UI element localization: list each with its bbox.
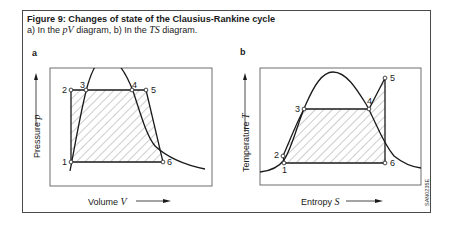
point-4-label: 4 (367, 97, 372, 106)
arrowhead-icon (243, 73, 247, 80)
point-3-label: 3 (80, 81, 85, 90)
point-3 (302, 107, 306, 111)
pv-diagram (34, 58, 212, 203)
point-1-label: 1 (282, 166, 287, 175)
ts-diagram (243, 68, 421, 203)
point-5-label: 5 (390, 74, 395, 83)
panel-b-x-label: Entropy S (301, 196, 340, 207)
y-label-text: Pressure (32, 119, 42, 158)
point-4-label: 4 (132, 81, 137, 90)
figure-code: SAN0235E (424, 179, 430, 206)
x-label-text: Volume (88, 197, 121, 207)
point-2-label: 2 (274, 151, 279, 160)
x-label-var: V (121, 196, 127, 207)
point-6-label: 6 (390, 159, 395, 168)
y-label-var: T (240, 113, 251, 119)
point-6 (383, 161, 387, 165)
point-4 (367, 107, 371, 111)
point-2-label: 2 (62, 86, 67, 95)
arrowhead-icon (34, 73, 38, 80)
point-5-label: 5 (151, 86, 156, 95)
diagram-canvas (0, 0, 454, 234)
panel-a-y-label: Pressure p (31, 114, 42, 158)
point-1-label: 1 (62, 158, 67, 167)
arrowhead-icon (163, 199, 171, 203)
y-label-text: Temperature (241, 119, 251, 172)
panel-a-x-label: Volume V (88, 196, 127, 207)
point-2 (69, 88, 73, 92)
point-2 (281, 154, 285, 158)
x-label-var: S (335, 196, 340, 207)
point-3-label: 3 (295, 105, 300, 114)
x-label-text: Entropy (301, 197, 335, 207)
arrowhead-icon (375, 199, 383, 203)
point-6-label: 6 (167, 158, 172, 167)
point-5 (383, 76, 387, 80)
point-1 (69, 160, 73, 164)
point-6 (161, 160, 165, 164)
y-label-var: p (31, 114, 42, 119)
panel-b-y-label: Temperature T (240, 113, 251, 172)
point-5 (144, 88, 148, 92)
